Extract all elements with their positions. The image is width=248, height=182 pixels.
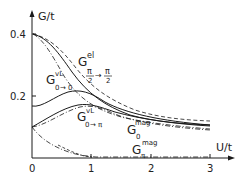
x-axis-label: U/t [216,141,233,154]
svg-text:G: G [132,143,141,157]
label-g-vl-0-0: G vL 0 → 0 [46,70,72,92]
svg-text:2: 2 [106,77,110,85]
svg-text:→: → [90,121,96,129]
chart: G/t U/t 0.4 0.2 0 1 2 3 G el π 2 → π 2 G… [0,0,248,182]
svg-text:vL: vL [86,107,94,115]
x-tick-label-3: 3 [207,163,213,174]
svg-text:mag: mag [135,119,151,127]
y-axis-label: G/t [38,10,55,23]
svg-text:0: 0 [55,84,59,92]
curve-mag-pi [32,127,210,157]
x-tick-label-1: 1 [88,163,94,174]
svg-text:G: G [78,55,87,69]
x-tick-label-0: 0 [29,163,35,174]
svg-text:el: el [87,51,94,60]
svg-text:→: → [95,71,102,80]
svg-text:0: 0 [85,121,89,129]
curve-vl-0-0 [32,91,210,125]
label-g-el-pi-half: G el π 2 → π 2 [78,51,112,85]
svg-text:π: π [87,67,92,76]
svg-text:vL: vL [55,70,63,78]
y-tick-label-0.2: 0.2 [10,91,26,102]
x-axis-arrow-icon [228,156,235,161]
x-tick-label-2: 2 [148,163,154,174]
curve-vl-0-pi [32,104,210,127]
svg-text:G: G [46,73,55,87]
svg-text:π: π [105,67,110,76]
y-axis-arrow-icon [30,10,35,17]
y-tick-label-0.4: 0.4 [10,29,26,40]
svg-text:0: 0 [136,133,140,141]
svg-text:0: 0 [68,84,72,92]
label-g-vl-0-pi: G vL 0 → π [77,107,103,129]
label-g-mag-0: G mag 0 [127,119,151,141]
curve-el-dashdot [33,34,210,129]
curve-mag-pi-dashed [58,145,92,157]
svg-text:π: π [141,152,146,160]
svg-text:π: π [98,121,103,129]
svg-text:→: → [60,84,66,92]
svg-text:mag: mag [142,139,158,147]
svg-text:2: 2 [88,77,92,85]
